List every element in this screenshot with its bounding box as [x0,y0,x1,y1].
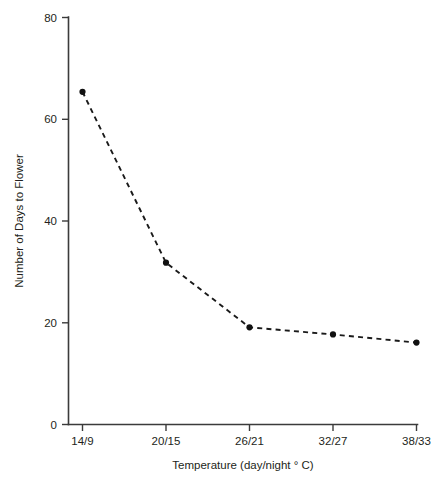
data-point [79,89,85,95]
x-tick-label: 32/27 [319,435,348,447]
y-axis-ticks [62,18,69,425]
chart-plot-area: 80 60 40 20 0 14/9 20/15 26/21 32/27 38/… [0,0,432,484]
y-axis-title: Number of Days to Flower [13,154,25,288]
x-axis-title: Temperature (day/night ° C) [172,459,314,471]
y-tick-label: 40 [44,215,57,227]
x-tick-label: 20/15 [152,435,181,447]
y-axis-tick-labels: 80 60 40 20 0 [44,12,57,431]
chart-figure: 80 60 40 20 0 14/9 20/15 26/21 32/27 38/… [0,0,432,484]
x-tick-label: 26/21 [235,435,264,447]
x-axis-ticks [83,425,417,432]
series-line-days-to-flower [83,92,417,343]
y-tick-label: 80 [44,12,57,24]
y-tick-label: 60 [44,113,57,125]
y-tick-label: 20 [44,317,57,329]
y-tick-label: 0 [51,419,57,431]
x-tick-label: 38/33 [402,435,431,447]
data-point [163,260,169,266]
data-point [413,339,419,345]
series-markers [79,89,419,346]
x-axis-tick-labels: 14/9 20/15 26/21 32/27 38/33 [71,435,431,447]
x-tick-label: 14/9 [71,435,93,447]
data-point [330,331,336,337]
data-point [246,324,252,330]
